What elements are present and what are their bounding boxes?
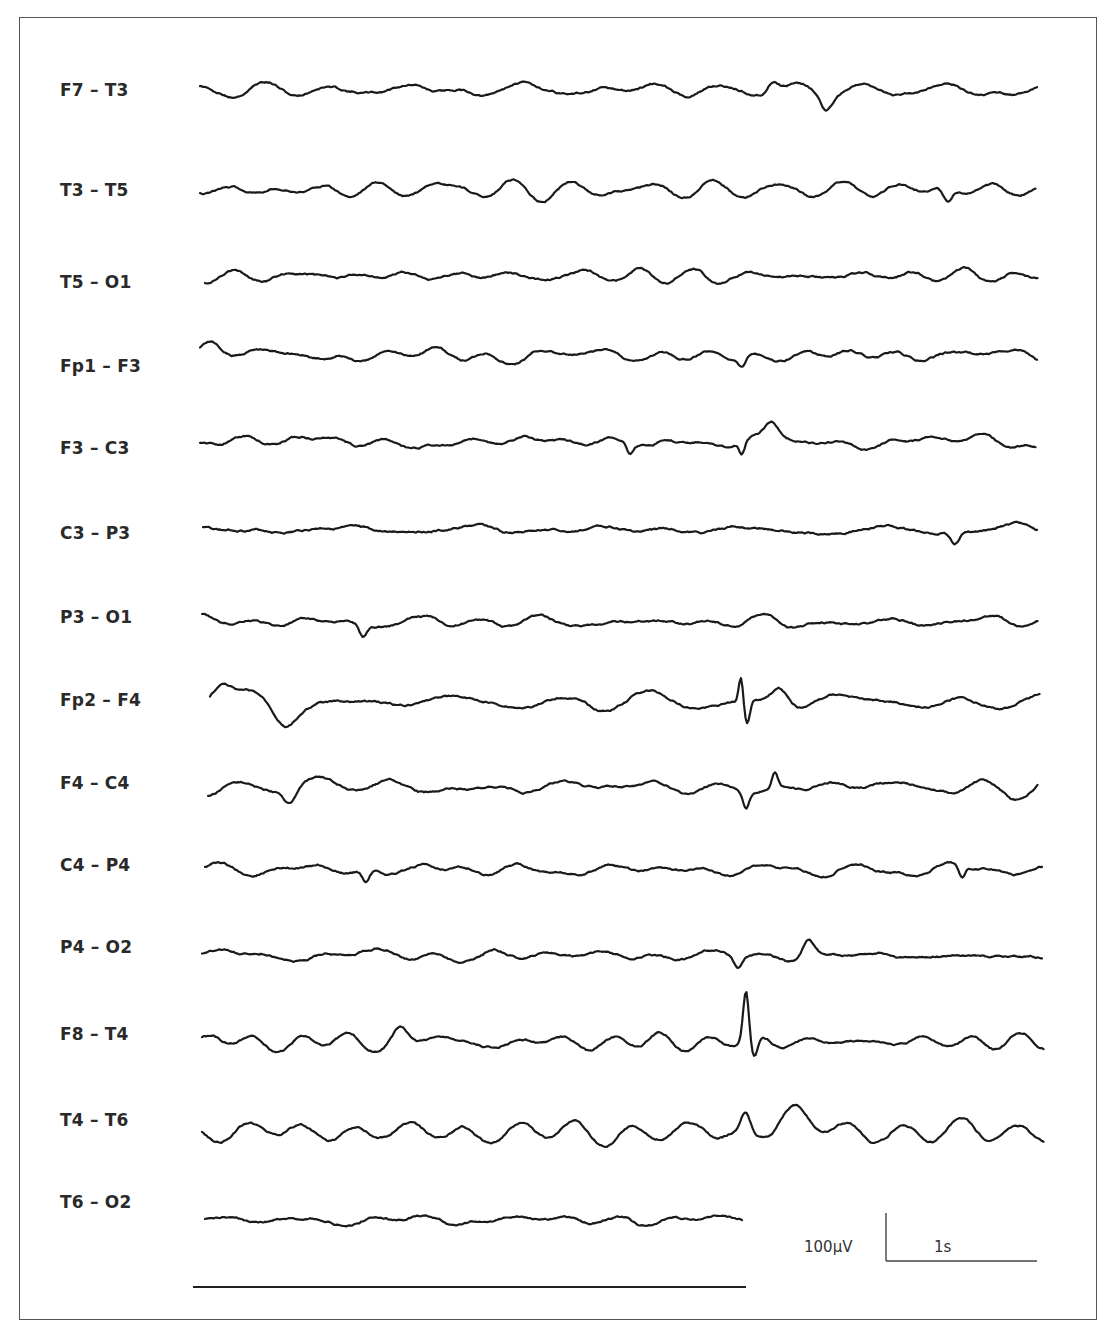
scale-bar: [0, 0, 1109, 1336]
amplitude-scale-label: 100µV: [804, 1238, 852, 1256]
eeg-figure: F7 – T3T3 – T5T5 – O1Fp1 – F3F3 – C3C3 –…: [0, 0, 1109, 1336]
time-scale-label: 1s: [934, 1238, 951, 1256]
